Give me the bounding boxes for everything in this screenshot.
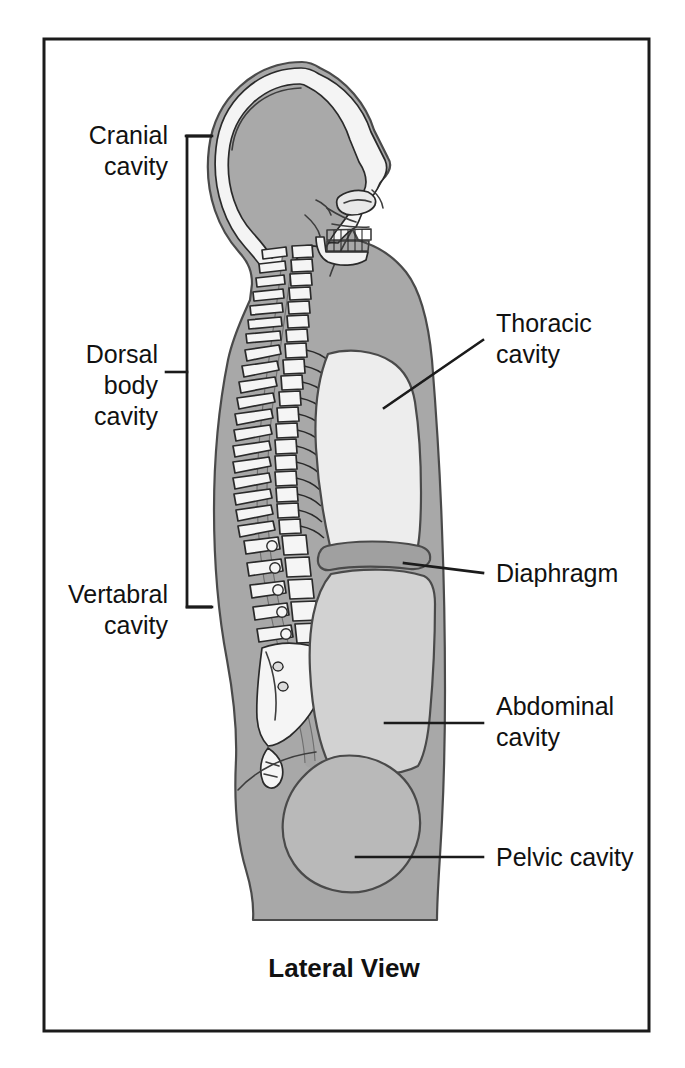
vertebra-l1 (282, 535, 308, 555)
thoracic-cavity-label-line2: cavity (496, 340, 560, 368)
vertebra-t8 (275, 455, 297, 470)
vertebra-t3 (281, 375, 303, 390)
vertebra-t12 (279, 519, 301, 534)
vertebra-c7 (286, 329, 308, 342)
dorsal-body-cavity-label-line1: Dorsal (86, 340, 158, 368)
vertebral-cavity-label-line1: Vertabral (68, 580, 168, 608)
vertebra-t5 (277, 407, 299, 422)
vertebra-c1 (292, 245, 313, 258)
figure-caption: Lateral View (268, 953, 420, 983)
cranial-cavity-label-line1: Cranial (89, 121, 168, 149)
abdominal-cavity-region (310, 570, 435, 775)
vertebra-c4 (289, 287, 311, 300)
diaphragm-label: Diaphragm (496, 559, 618, 587)
cranial-cavity-label-line2: cavity (104, 152, 168, 180)
vertebra-t6 (276, 423, 298, 438)
diaphragm-region (318, 542, 430, 571)
vertebra-c3 (290, 273, 312, 286)
sacral-foramen-2 (278, 682, 288, 691)
abdominal-cavity-label-line1: Abdominal (496, 692, 614, 720)
orbit-shape (337, 190, 376, 215)
vertebra-c5 (288, 301, 310, 314)
abdominal-cavity-label-line2: cavity (496, 723, 560, 751)
sacral-foramen-1 (273, 662, 283, 671)
thoracic-cavity-region (316, 351, 422, 546)
vertebra-c6 (287, 315, 309, 328)
dorsal-body-cavity-label-line2: body (104, 371, 159, 399)
vertebra-t10 (276, 487, 298, 502)
vertebra-t7 (275, 439, 297, 454)
vertebra-t11 (277, 503, 299, 518)
anatomy-figure-svg: Cranial cavity Dorsal body cavity Vertab… (0, 0, 685, 1068)
vertebra-t9 (275, 471, 297, 486)
vertebral-cavity-label-line2: cavity (104, 611, 168, 639)
vertebra-c2 (291, 259, 313, 272)
vertebra-t2 (283, 359, 305, 374)
vertebra-t1 (285, 343, 307, 358)
vertebra-l2 (285, 557, 311, 577)
vertebra-l3 (288, 579, 314, 599)
dorsal-body-cavity-label-line3: cavity (94, 402, 158, 430)
figure-container: Cranial cavity Dorsal body cavity Vertab… (0, 0, 685, 1068)
pelvic-cavity-label: Pelvic cavity (496, 843, 634, 871)
pelvic-cavity-region (283, 756, 420, 893)
vertebra-t4 (279, 391, 301, 406)
thoracic-cavity-label-line1: Thoracic (496, 309, 592, 337)
